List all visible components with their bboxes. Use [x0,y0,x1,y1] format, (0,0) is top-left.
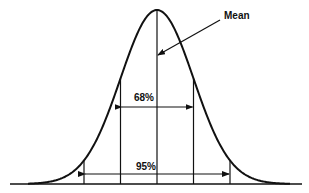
mean-pointer-arrow [158,20,220,55]
normal-distribution-diagram: Mean 68% 95% [0,0,309,193]
bell-curve [28,10,290,184]
label-68-percent: 68% [134,92,154,103]
mean-label: Mean [224,10,250,21]
label-95-percent: 95% [136,161,156,172]
